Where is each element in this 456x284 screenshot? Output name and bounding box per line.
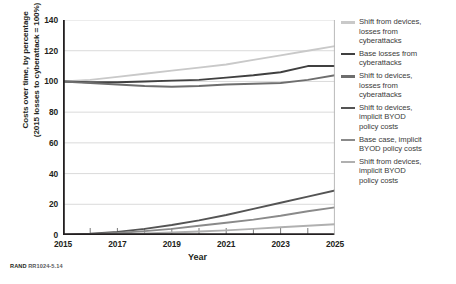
legend-item-2[interactable]: Base losses from cyberattacks bbox=[341, 49, 453, 68]
series-line-1 bbox=[63, 46, 335, 81]
legend-item-4[interactable]: Shift to devices, implicit BYOD policy c… bbox=[341, 103, 453, 132]
legend-item-label: Shift from devices, losses from cyberatt… bbox=[359, 17, 421, 46]
legend-swatch-icon bbox=[341, 53, 355, 56]
x-tick-label: 2021 bbox=[209, 239, 243, 249]
figure-container: Costs over time, by percentage (2015 los… bbox=[0, 0, 456, 284]
chart-legend: Shift from devices, losses from cyberatt… bbox=[341, 17, 453, 189]
legend-swatch-icon bbox=[341, 107, 355, 110]
x-tick-label: 2019 bbox=[155, 239, 189, 249]
legend-swatch-icon bbox=[341, 161, 355, 164]
legend-item-6[interactable]: Shift from devices, implicit BYOD policy… bbox=[341, 157, 453, 186]
legend-item-label: Shift from devices, implicit BYOD policy… bbox=[359, 157, 421, 186]
gridlines bbox=[63, 20, 335, 204]
y-tick-label: 80 bbox=[30, 107, 58, 117]
y-axis-title-line1: Costs over time, by percentage bbox=[21, 11, 30, 128]
data-series-group bbox=[63, 46, 335, 235]
legend-item-label: Base case, implicit BYOD policy costs bbox=[359, 135, 422, 154]
legend-swatch-icon bbox=[341, 21, 355, 24]
x-tick-label: 2023 bbox=[264, 239, 298, 249]
y-tick-label: 40 bbox=[30, 169, 58, 179]
y-tick-label: 20 bbox=[30, 199, 58, 209]
chart-svg bbox=[63, 20, 335, 235]
plot-area bbox=[63, 20, 335, 235]
source-note-id: RR1024-5.14 bbox=[27, 263, 63, 269]
legend-item-label: Base losses from cyberattacks bbox=[359, 49, 417, 68]
legend-item-label: Shift to devices, implicit BYOD policy c… bbox=[359, 103, 412, 132]
legend-item-3[interactable]: Shift to devices, losses from cyberattac… bbox=[341, 71, 453, 100]
y-tick-label: 120 bbox=[30, 46, 58, 56]
legend-swatch-icon bbox=[341, 75, 355, 78]
source-note: RAND RR1024-5.14 bbox=[10, 263, 63, 269]
legend-swatch-icon bbox=[341, 139, 355, 142]
legend-item-1[interactable]: Shift from devices, losses from cyberatt… bbox=[341, 17, 453, 46]
x-tick-label: 2017 bbox=[100, 239, 134, 249]
legend-item-label: Shift to devices, losses from cyberattac… bbox=[359, 71, 412, 100]
y-tick-label: 100 bbox=[30, 76, 58, 86]
source-note-brand: RAND bbox=[10, 263, 27, 269]
y-tick-label: 140 bbox=[30, 15, 58, 25]
x-tick-label: 2015 bbox=[46, 239, 80, 249]
y-tick-label: 60 bbox=[30, 138, 58, 148]
x-tick-label: 2025 bbox=[318, 239, 352, 249]
legend-item-5[interactable]: Base case, implicit BYOD policy costs bbox=[341, 135, 453, 154]
x-axis-title: Year bbox=[60, 252, 335, 262]
